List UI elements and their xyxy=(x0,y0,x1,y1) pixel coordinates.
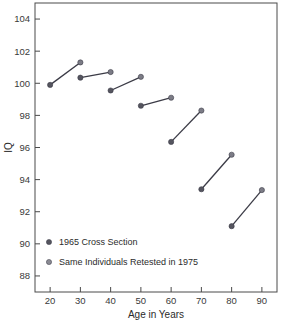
pair-connector-line xyxy=(201,155,231,190)
y-axis-tick-labels: 889092949698100102104 xyxy=(14,13,30,281)
data-points xyxy=(48,60,265,229)
iq-vs-age-scatter-chart: 889092949698100102104 2030405060708090 1… xyxy=(0,0,285,325)
chart-figure: 889092949698100102104 2030405060708090 1… xyxy=(0,0,285,325)
pair-connector-line xyxy=(111,77,141,91)
legend-marker-2 xyxy=(46,259,51,264)
data-point-marker xyxy=(199,187,204,192)
data-point-marker xyxy=(229,152,234,157)
plot-frame xyxy=(35,3,277,292)
legend-marker-1 xyxy=(46,239,51,244)
chart-legend: 1965 Cross SectionSame Individuals Retes… xyxy=(46,237,198,267)
x-tick-label: 90 xyxy=(257,295,268,306)
y-tick-label: 88 xyxy=(19,270,30,281)
data-segments xyxy=(50,62,262,226)
data-point-marker xyxy=(78,60,83,65)
x-axis-title: Age in Years xyxy=(128,309,184,320)
data-point-marker xyxy=(169,95,174,100)
legend-label-1: 1965 Cross Section xyxy=(59,237,138,247)
y-tick-label: 102 xyxy=(14,46,30,57)
data-point-marker xyxy=(169,139,174,144)
x-tick-label: 40 xyxy=(105,295,116,306)
data-point-marker xyxy=(78,75,83,80)
pair-connector-line xyxy=(80,72,110,78)
y-tick-label: 92 xyxy=(19,206,30,217)
y-tick-label: 96 xyxy=(19,142,30,153)
data-point-marker xyxy=(138,103,143,108)
y-tick-label: 90 xyxy=(19,238,30,249)
pair-connector-line xyxy=(50,62,80,84)
data-point-marker xyxy=(108,69,113,74)
pair-connector-line xyxy=(232,190,262,226)
data-point-marker xyxy=(138,74,143,79)
y-tick-label: 100 xyxy=(14,78,30,89)
y-axis-ticks xyxy=(35,19,40,276)
y-tick-label: 94 xyxy=(19,174,30,185)
data-point-marker xyxy=(48,82,53,87)
data-point-marker xyxy=(229,224,234,229)
x-axis-ticks xyxy=(50,287,262,292)
x-tick-label: 70 xyxy=(196,295,207,306)
x-tick-label: 20 xyxy=(45,295,56,306)
data-point-marker xyxy=(259,187,264,192)
pair-connector-line xyxy=(141,98,171,106)
x-axis-tick-labels: 2030405060708090 xyxy=(45,295,267,306)
x-tick-label: 80 xyxy=(226,295,237,306)
x-tick-label: 60 xyxy=(166,295,177,306)
data-point-marker xyxy=(108,88,113,93)
y-axis-title: IQ xyxy=(3,142,14,153)
y-tick-label: 98 xyxy=(19,110,30,121)
legend-label-2: Same Individuals Retested in 1975 xyxy=(59,257,198,267)
data-point-marker xyxy=(199,108,204,113)
pair-connector-line xyxy=(171,111,201,142)
y-tick-label: 104 xyxy=(14,13,30,24)
x-tick-label: 30 xyxy=(75,295,86,306)
x-tick-label: 50 xyxy=(136,295,147,306)
